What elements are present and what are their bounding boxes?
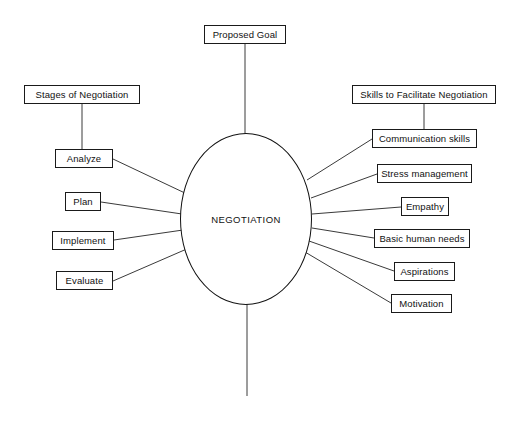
node-empathy[interactable]: Empathy [401,197,449,216]
concept-map-diagram: NEGOTIATION Proposed Goal Stages of Nego… [0,0,511,429]
node-basic-human-needs[interactable]: Basic human needs [374,229,470,248]
node-proposed-goal[interactable]: Proposed Goal [204,25,286,44]
node-skills-to-facilitate-negotiation[interactable]: Skills to Facilitate Negotiation [352,85,496,104]
connector-center-to-empathy [312,207,401,214]
node-plan[interactable]: Plan [65,192,101,211]
connector-center-to-stress_management [311,174,377,198]
node-implement[interactable]: Implement [52,231,114,250]
connector-center-to-motivation [305,252,391,303]
node-evaluate[interactable]: Evaluate [56,271,113,290]
node-communication-skills[interactable]: Communication skills [372,129,477,148]
node-stress-management[interactable]: Stress management [377,164,472,183]
connector-center-to-basic_human_needs [312,228,374,238]
node-motivation[interactable]: Motivation [391,294,452,313]
central-node-label: NEGOTIATION [180,214,312,225]
connector-implement-to-center [114,230,183,240]
connector-evaluate-to-center [113,248,189,281]
connector-plan-to-center [101,202,182,214]
node-aspirations[interactable]: Aspirations [394,262,455,281]
connector-center-to-communication_skills [307,139,372,180]
connector-analyze-to-center [113,159,187,194]
node-analyze[interactable]: Analyze [55,149,113,168]
node-stages-of-negotiation[interactable]: Stages of Negotiation [24,85,140,104]
